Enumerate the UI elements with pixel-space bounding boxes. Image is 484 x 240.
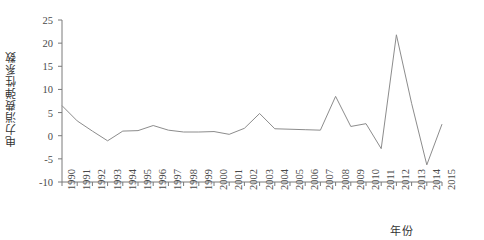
plot-area [0, 0, 484, 240]
electricity-elasticity-line-chart: 电力消费弹性系数 2520151050-5-10 年份 199019911992… [0, 0, 484, 240]
axes-group [58, 20, 442, 186]
data-series-line [62, 35, 442, 165]
